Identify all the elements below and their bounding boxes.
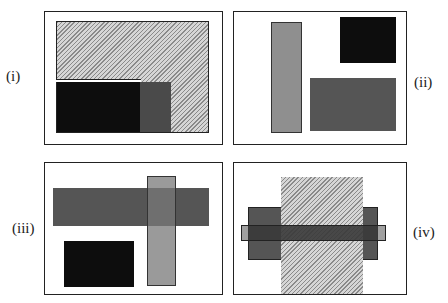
panel-iii-wide-bar — [53, 188, 209, 226]
panel-i-black-rect — [57, 82, 141, 132]
panel-iii-black-rect — [64, 241, 134, 287]
panel-iii-label: (iii) — [12, 220, 35, 237]
panel-i-dark-gray-rect — [140, 82, 171, 132]
panel-ii-label: (ii) — [414, 74, 432, 91]
panel-ii-black-rect — [340, 17, 396, 63]
panel-iii-tall-rect — [147, 176, 176, 286]
panel-i-label: (i) — [6, 68, 20, 85]
panel-ii-tall-rect — [271, 22, 302, 133]
panel-iv-label: (iv) — [413, 224, 435, 241]
panel-iv-thin-bar-overlap — [248, 226, 378, 240]
panel-ii-dark-gray-rect — [310, 78, 396, 131]
